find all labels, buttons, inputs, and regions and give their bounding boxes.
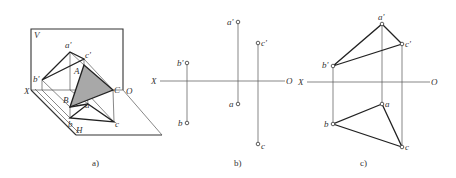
point-a-prime [380,22,384,26]
label-b-prime: b' [322,60,330,70]
label-X: X [150,76,157,86]
point-c-prime [256,41,260,45]
label-b: b [324,119,329,129]
point-b-prime [331,64,335,68]
label-X: X [297,77,304,87]
label-a-prime: a' [227,17,235,27]
point-a-prime [236,20,240,24]
label-a-prime: a' [65,40,73,50]
label-b-prime: b' [33,74,41,84]
point-b [331,122,335,126]
label-H: H [75,125,83,135]
caption-a: a) [92,158,99,168]
panel-b-points: X O b' a' c' a b c b) [150,17,293,168]
point-c [256,142,260,146]
label-b: b [178,118,183,128]
label-O: O [431,77,438,87]
projection-figure: V a' c' b' A B C X O a b c H a) X O b' a… [0,0,456,178]
point-a [380,102,384,106]
point-a [236,102,240,106]
label-b: b [68,119,73,129]
label-O: O [286,76,293,86]
label-b-prime: b' [177,58,185,68]
triangle-h-projection [70,104,114,122]
label-c-prime: c' [261,38,268,48]
point-c [400,145,404,149]
label-V: V [34,30,41,40]
point-b-prime [185,61,189,65]
label-c: c [405,142,409,152]
label-C: C [114,85,121,95]
panel-c-triangle: X O a' c' b' a b c c) [297,12,438,168]
caption-c: c) [360,158,367,168]
h-plane-right-edge [123,90,162,135]
v-plane-frame [31,29,123,90]
point-c-prime [400,42,404,46]
label-c: c [261,141,265,151]
label-B: B [63,95,69,105]
label-a: a [229,99,234,109]
triangle-h-projection [333,104,402,147]
label-c-prime: c' [85,50,92,60]
label-a: a [385,99,390,109]
label-a-prime: a' [378,12,386,22]
label-A: A [73,66,80,76]
caption-b: b) [234,158,242,168]
label-O: O [126,86,133,96]
panel-a-pictorial: V a' c' b' A B C X O a b c H a) [23,29,162,168]
label-X: X [23,86,30,96]
label-a: a [85,100,90,110]
label-c: c [115,119,119,129]
triangle-v-projection [333,24,402,66]
point-b [185,121,189,125]
label-c-prime: c' [405,39,412,49]
